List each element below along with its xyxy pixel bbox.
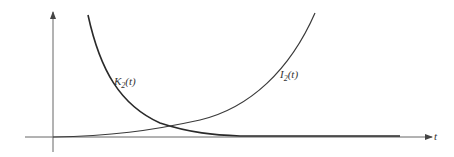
bessel-functions-diagram: t K2(t) I2(t): [0, 0, 454, 157]
i2-label: I2(t): [279, 68, 298, 83]
x-axis-label: t: [434, 130, 438, 142]
